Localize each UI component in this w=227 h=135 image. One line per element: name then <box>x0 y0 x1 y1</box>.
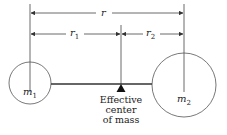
label-m1: m1 <box>23 87 37 101</box>
fulcrum-triangle-icon <box>117 84 126 92</box>
label-r1: r1 <box>70 28 79 42</box>
label-m2: m2 <box>177 94 191 108</box>
center-of-mass-caption: Effective center of mass <box>91 95 151 125</box>
caption-line-3: of mass <box>91 115 151 125</box>
label-r2: r2 <box>146 28 155 42</box>
label-r: r <box>101 8 106 18</box>
